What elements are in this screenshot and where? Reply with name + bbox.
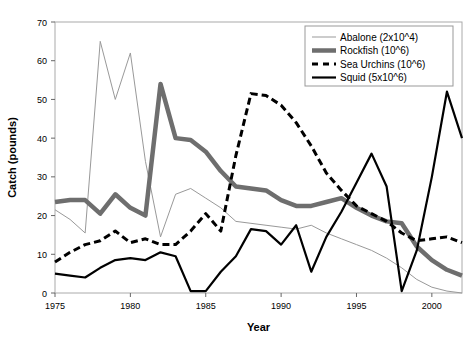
legend-label-0: Abalone (2x10^4)	[340, 32, 418, 43]
legend-label-2: Sea Urchins (10^6)	[340, 59, 425, 70]
x-axis-tick-label-0: 1975	[45, 301, 65, 311]
chart-canvas: 010203040506070197519801985199019952000Y…	[0, 0, 475, 340]
x-axis-tick-label-3: 1990	[271, 301, 291, 311]
x-axis-tick-label-2: 1985	[196, 301, 216, 311]
catch-line-chart: 010203040506070197519801985199019952000Y…	[0, 0, 475, 340]
y-axis-tick-label-0: 0	[42, 289, 47, 299]
x-axis-title: Year	[247, 321, 271, 333]
x-axis-tick-label-1: 1980	[120, 301, 140, 311]
y-axis-tick-label-6: 60	[37, 56, 47, 66]
y-axis-tick-label-3: 30	[37, 172, 47, 182]
y-axis-tick-label-1: 10	[37, 250, 47, 260]
legend-label-3: Squid (5x10^6)	[340, 72, 407, 83]
y-axis-tick-label-7: 70	[37, 18, 47, 28]
y-axis-title: Catch (pounds)	[6, 117, 18, 198]
y-axis-tick-label-2: 20	[37, 211, 47, 221]
x-axis-tick-label-5: 2000	[422, 301, 442, 311]
x-axis-tick-label-4: 1995	[346, 301, 366, 311]
y-axis-tick-label-4: 40	[37, 134, 47, 144]
legend-label-1: Rockfish (10^6)	[340, 45, 409, 56]
y-axis-tick-label-5: 50	[37, 95, 47, 105]
